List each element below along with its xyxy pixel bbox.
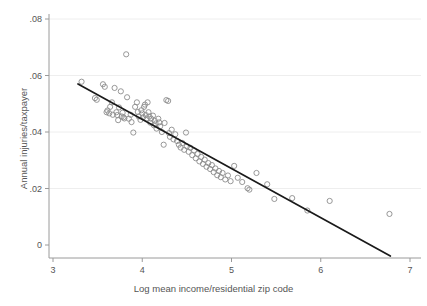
svg-text:0: 0 bbox=[37, 240, 42, 250]
x-axis-label: Log mean income/residential zip code bbox=[0, 283, 427, 294]
svg-text:.06: .06 bbox=[29, 71, 42, 81]
svg-text:5: 5 bbox=[229, 265, 234, 275]
svg-text:7: 7 bbox=[407, 265, 412, 275]
plot-area: 0.02.04.06.0834567 bbox=[0, 0, 427, 306]
svg-text:6: 6 bbox=[318, 265, 323, 275]
svg-text:.02: .02 bbox=[29, 184, 42, 194]
scatter-chart: 0.02.04.06.0834567 Annual injuries/taxpa… bbox=[0, 0, 427, 306]
data-points bbox=[79, 52, 392, 217]
svg-text:.04: .04 bbox=[29, 127, 42, 137]
y-axis-label: Annual injuries/taxpayer bbox=[18, 54, 29, 224]
svg-text:.08: .08 bbox=[29, 14, 42, 24]
tick-marks bbox=[45, 19, 410, 262]
regression-line bbox=[78, 84, 390, 256]
axis-lines bbox=[49, 14, 421, 258]
svg-text:3: 3 bbox=[50, 265, 55, 275]
svg-text:4: 4 bbox=[140, 265, 145, 275]
